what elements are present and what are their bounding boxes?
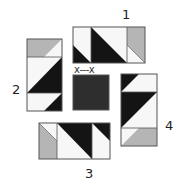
unit-3 — [39, 123, 110, 159]
unit-3-label: 3 — [85, 166, 93, 181]
center-dark-square — [73, 75, 109, 110]
unit-1-label: 1 — [122, 7, 130, 22]
unit-2 — [27, 39, 62, 111]
quilt-diagram: 1 2 x---x 4 3 — [0, 0, 182, 187]
center-square — [73, 75, 109, 110]
unit-1 — [73, 27, 145, 63]
center-mark: x---x — [74, 64, 95, 75]
unit-4 — [121, 74, 157, 146]
unit-2-label: 2 — [12, 82, 20, 97]
unit-4-label: 4 — [165, 118, 173, 133]
